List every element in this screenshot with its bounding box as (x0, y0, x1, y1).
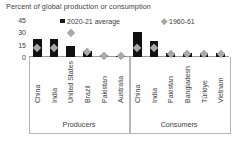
y-tick-label: 0 (22, 54, 26, 61)
diamond-marker[interactable] (83, 48, 91, 56)
bar-slot[interactable] (79, 20, 96, 57)
diamond-marker[interactable] (150, 44, 158, 52)
bar-slot[interactable] (146, 20, 163, 57)
bar-slot[interactable] (46, 20, 63, 57)
bar[interactable] (66, 46, 75, 58)
plot-area: 0153045 (29, 20, 229, 57)
y-tick-label: 30 (18, 29, 26, 36)
bar-slot[interactable] (162, 20, 179, 57)
diamond-marker[interactable] (67, 28, 75, 36)
bar-slot[interactable] (179, 20, 196, 57)
bar-slot[interactable] (62, 20, 79, 57)
diamond-marker[interactable] (133, 44, 141, 52)
bar[interactable] (150, 41, 159, 57)
group-label-producers: Producers (29, 120, 129, 129)
y-tick-label: 45 (18, 17, 26, 24)
bar[interactable] (133, 32, 142, 57)
bar[interactable] (50, 39, 59, 57)
bar-slot[interactable] (212, 20, 229, 57)
bar-slot[interactable] (129, 20, 146, 57)
y-tick-label: 15 (18, 41, 26, 48)
group-label-consumers: Consumers (129, 120, 229, 129)
bar-slot[interactable] (112, 20, 129, 57)
chart-root: Percent of global production or consumpt… (0, 0, 234, 141)
bar-slot[interactable] (96, 20, 113, 57)
bar-slot[interactable] (29, 20, 46, 57)
diamond-marker[interactable] (33, 44, 41, 52)
bar[interactable] (33, 39, 42, 57)
bar-series (29, 20, 229, 57)
diamond-marker[interactable] (50, 44, 58, 52)
chart-title: Percent of global production or consumpt… (6, 2, 151, 11)
bar-slot[interactable] (196, 20, 213, 57)
